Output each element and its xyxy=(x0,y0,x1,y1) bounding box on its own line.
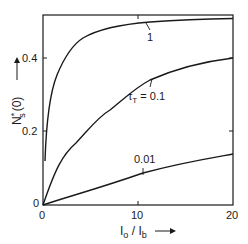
curve-label-0.1-value: = 0.1 xyxy=(137,90,165,102)
x-tick-label-20: 20 xyxy=(226,209,238,221)
curve-label-1: 1 xyxy=(147,31,153,43)
x-label-sub2: b xyxy=(142,230,147,240)
y-axis-arrow-icon xyxy=(14,57,20,63)
x-label-slash: / xyxy=(128,224,138,238)
curve-label-0.01: 0.01 xyxy=(134,153,155,165)
y-tick-label-02: 0.2 xyxy=(22,125,37,137)
leader-1 xyxy=(146,23,150,30)
x-axis-arrow-icon xyxy=(170,228,176,234)
y-label-arg: (0) xyxy=(10,97,24,112)
plot-frame xyxy=(43,15,233,205)
x-tick-label-0: 0 xyxy=(39,209,45,221)
y-axis-label: N*s(0) xyxy=(9,57,27,125)
curve-label-0.1: τT = 0.1 xyxy=(128,90,165,105)
x-axis-label: Io / Ib xyxy=(120,224,176,240)
svg-text:N*s(0): N*s(0) xyxy=(9,97,27,125)
y-tick-label-04: 0.4 xyxy=(22,52,37,64)
svg-text:Io / Ib: Io / Ib xyxy=(120,224,147,240)
x-tick-label-10: 10 xyxy=(131,209,143,221)
y-label-sub: s xyxy=(17,113,27,118)
chart: 0 0.2 0.4 0 10 20 1 τT = 0.1 0.01 N*s(0)… xyxy=(0,0,248,244)
y-tick-label-0: 0 xyxy=(33,197,39,209)
curve-tau-0.1 xyxy=(43,58,233,205)
